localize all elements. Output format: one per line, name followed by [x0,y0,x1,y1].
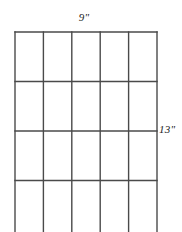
height-dimension-label: 13" [159,124,182,135]
width-dimension-label: 9" [72,12,96,23]
grid-diagram-svg [0,0,182,232]
grid-figure: 9" 13" [0,0,182,232]
figure-background [0,0,182,232]
